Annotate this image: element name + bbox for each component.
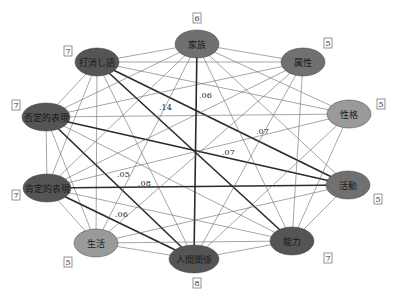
node-kotei: 肯定的表現	[23, 174, 71, 202]
edge-weight-label: .06	[115, 210, 128, 219]
node-label: 活動	[339, 180, 357, 191]
node-count-badge: 5	[324, 38, 332, 48]
node-label: 性格	[340, 109, 358, 120]
node-uchikeshi: 打消し語	[75, 48, 119, 76]
edge-kazoku-seikaku	[197, 44, 349, 114]
node-count-badge: 8	[193, 278, 201, 288]
node-kazoku: 家族	[175, 30, 219, 58]
node-label: 否定的表現	[24, 112, 69, 123]
node-label: 肯定的表現	[25, 183, 70, 194]
node-count-badge: 7	[12, 190, 20, 200]
node-noryoku: 能力	[270, 227, 314, 255]
edge-kotei-katsudo	[47, 185, 348, 188]
node-count-badge: 5	[374, 194, 382, 204]
edge-uchikeshi-seikatsu	[96, 62, 97, 243]
node-count: 7	[325, 254, 330, 263]
node-count: 5	[375, 195, 380, 204]
node-count: 8	[194, 279, 199, 288]
edge-weight-label: .14	[159, 103, 172, 112]
edge-labels-layer: .06.14.07.07.05.08.06	[115, 91, 269, 219]
node-count: 7	[13, 101, 18, 110]
edge-kotei-zokusei	[47, 62, 303, 188]
node-label: 生活	[87, 238, 105, 249]
node-count: 5	[65, 258, 70, 267]
node-count-badge: 5	[377, 99, 385, 109]
node-hitei: 否定的表現	[22, 103, 70, 131]
edge-kotei-seikaku	[47, 114, 349, 188]
node-count-badge: 7	[12, 100, 20, 110]
node-label: 能力	[283, 236, 301, 247]
node-label: 人間関係	[176, 255, 212, 265]
edge-hitei-seikaku	[46, 114, 349, 117]
node-count: 5	[378, 100, 383, 109]
network-diagram: .06.14.07.07.05.08.06 家族属性性格活動能力人間関係生活肯定…	[0, 0, 393, 296]
edge-weight-label: .07	[222, 148, 235, 157]
node-label: 家族	[188, 39, 206, 50]
edges-layer	[46, 44, 349, 259]
node-zokusei: 属性	[281, 48, 325, 76]
node-count-badge: 7	[324, 253, 332, 263]
edge-zokusei-noryoku	[292, 62, 303, 241]
node-count-badge: 5	[64, 257, 72, 267]
node-count: 5	[325, 39, 330, 48]
node-label: 打消し語	[79, 57, 115, 68]
node-ningen: 人間関係	[169, 245, 219, 273]
edge-weight-label: .08	[138, 179, 151, 188]
node-count: 6	[194, 14, 199, 23]
node-seikatsu: 生活	[74, 229, 118, 257]
edge-weight-label: .05	[117, 170, 130, 179]
edge-weight-label: .06	[199, 91, 212, 100]
node-count-badge: 7	[64, 46, 72, 56]
edge-weight-label: .07	[256, 127, 269, 136]
node-count-badge: 6	[193, 13, 201, 23]
node-count: 7	[13, 191, 18, 200]
node-seikaku: 性格	[327, 100, 371, 128]
node-katsudo: 活動	[326, 171, 370, 199]
node-count: 7	[65, 47, 70, 56]
edge-kotei-ningen	[47, 188, 194, 259]
node-label: 属性	[294, 57, 312, 68]
